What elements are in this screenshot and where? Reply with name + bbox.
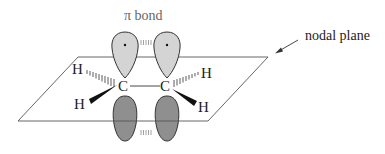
nodal-plane-label: nodal plane: [305, 28, 370, 43]
pi-bond-label: π bond: [124, 8, 163, 23]
atom-hydrogen-lower-right: H: [198, 99, 209, 115]
lower-pi-overlap-hash: [141, 130, 151, 135]
lower-p-orbital-left: [113, 96, 137, 141]
atom-hydrogen-upper-left: H: [72, 61, 83, 77]
atom-carbon-left: C: [118, 78, 128, 94]
upper-p-orbital-left: [112, 32, 138, 78]
pointer-arrow-icon: [275, 40, 298, 54]
atom-hydrogen-lower-left: H: [74, 96, 85, 112]
hashed-bond-upper-left: [87, 70, 114, 87]
upper-p-orbital-right: [154, 32, 180, 78]
hashed-bond-upper-right: [174, 72, 198, 87]
wedge-bond-lower-left: [89, 85, 117, 104]
atom-carbon-right: C: [160, 78, 170, 94]
electron-dot-icon: [166, 44, 168, 46]
electron-dot-icon: [124, 44, 126, 46]
upper-pi-overlap-hash: [141, 40, 151, 45]
pi-bond-diagram: C C H H H H π bond nodal plane: [0, 0, 385, 154]
nodal-plane: [18, 57, 268, 121]
atom-hydrogen-upper-right: H: [201, 65, 212, 81]
lower-p-orbital-right: [155, 96, 179, 141]
